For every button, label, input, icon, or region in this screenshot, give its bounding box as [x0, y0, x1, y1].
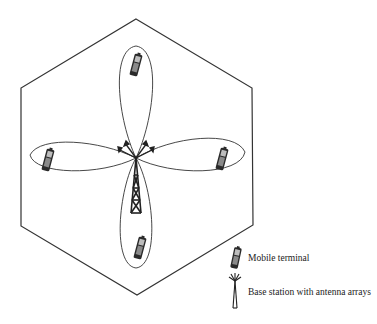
beam-right: [136, 138, 245, 171]
cell-diagram: [0, 0, 377, 324]
mobile-terminal-left: [41, 147, 55, 172]
base-station-icon: [229, 273, 241, 308]
mobile-terminal-up: [129, 52, 143, 77]
mobile-terminal-icon: [230, 246, 242, 269]
base-station-tower-icon: [131, 158, 141, 213]
antenna-array-icon: [118, 141, 154, 158]
legend-base-station-label: Base station with antenna arrays: [248, 287, 371, 297]
legend-mobile-terminal-label: Mobile terminal: [248, 253, 309, 263]
mobile-terminal-down: [133, 235, 147, 260]
